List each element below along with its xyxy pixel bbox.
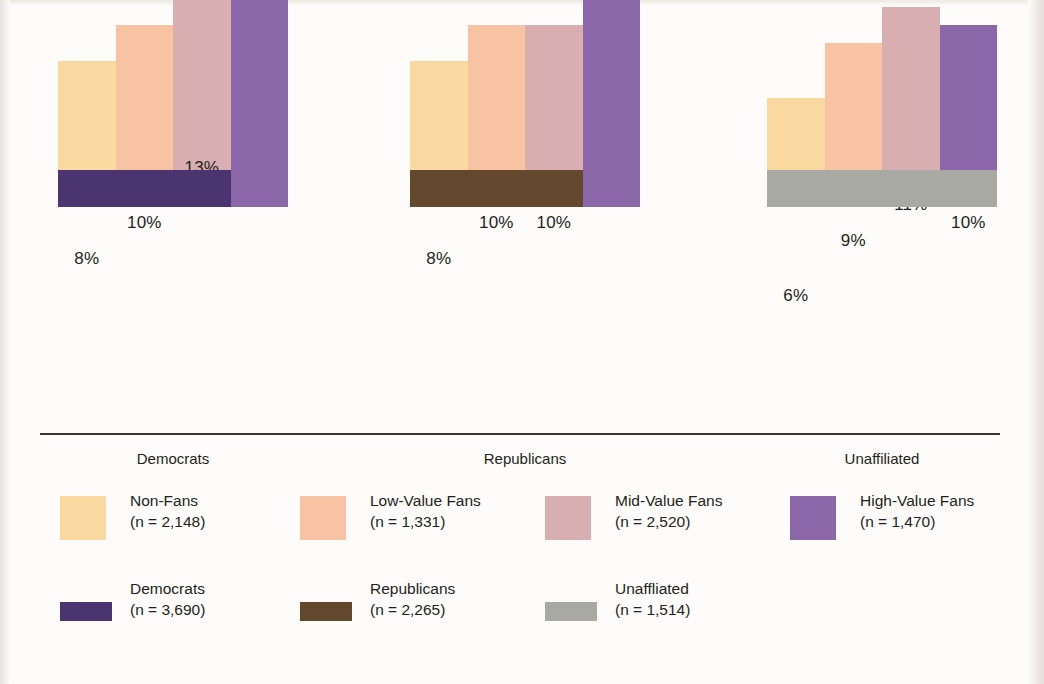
legend-label: High-Value Fans(n = 1,470): [860, 490, 974, 532]
bar-value-label: 10%: [525, 213, 583, 233]
legend-label-count: (n = 1,470): [860, 511, 974, 532]
group-base-band-front: [767, 170, 997, 207]
legend-label: Non-Fans(n = 2,148): [130, 490, 205, 532]
legend-label-count: (n = 2,520): [615, 511, 722, 532]
group-label-democrats: Democrats: [58, 450, 288, 467]
chart-legend: Non-Fans(n = 2,148)Low-Value Fans(n = 1,…: [0, 492, 1044, 652]
legend-swatch-icon: [790, 496, 836, 540]
bar-value-label: 9%: [825, 231, 883, 251]
bar-high-value-overlay: [583, 0, 641, 207]
legend-label-count: (n = 2,265): [370, 599, 455, 620]
bar-value-label: 6%: [767, 286, 825, 306]
group-label-republicans: Republicans: [410, 450, 640, 467]
legend-swatch-icon: [545, 602, 597, 621]
legend-label-count: (n = 3,690): [130, 599, 205, 620]
bar-group: 6%9%11%10%: [767, 0, 997, 470]
bar-group: 8%10%13%20%: [58, 0, 288, 470]
legend-label: Republicans(n = 2,265): [370, 578, 455, 620]
legend-label: Low-Value Fans(n = 1,331): [370, 490, 481, 532]
legend-label: Mid-Value Fans(n = 2,520): [615, 490, 722, 532]
legend-label-name: Unaffliated: [615, 580, 689, 597]
legend-swatch-icon: [300, 496, 346, 540]
bar-value-label: 10%: [468, 213, 526, 233]
legend-swatch-icon: [60, 496, 106, 540]
legend-label-count: (n = 1,331): [370, 511, 481, 532]
legend-label-name: Non-Fans: [130, 492, 198, 509]
legend-label-name: Republicans: [370, 580, 455, 597]
bar-high-value-overlay: [231, 0, 289, 207]
legend-label: Democrats(n = 3,690): [130, 578, 205, 620]
legend-swatch-icon: [545, 496, 591, 540]
legend-label-name: Mid-Value Fans: [615, 492, 722, 509]
bar-group: 8%10%10%16%: [410, 0, 640, 470]
legend-label: Unaffliated(n = 1,514): [615, 578, 690, 620]
legend-label-count: (n = 2,148): [130, 511, 205, 532]
bar-value-label: 8%: [410, 249, 468, 269]
legend-label-count: (n = 1,514): [615, 599, 690, 620]
legend-label-name: High-Value Fans: [860, 492, 974, 509]
bar-value-label: 10%: [940, 213, 998, 233]
legend-swatch-icon: [60, 602, 112, 621]
x-axis-line: [40, 433, 1000, 435]
bar-value-label: 8%: [58, 249, 116, 269]
legend-label-name: Low-Value Fans: [370, 492, 481, 509]
legend-swatch-icon: [300, 602, 352, 621]
bar-value-label: 10%: [116, 213, 174, 233]
group-label-unaffiliated: Unaffiliated: [767, 450, 997, 467]
legend-label-name: Democrats: [130, 580, 205, 597]
